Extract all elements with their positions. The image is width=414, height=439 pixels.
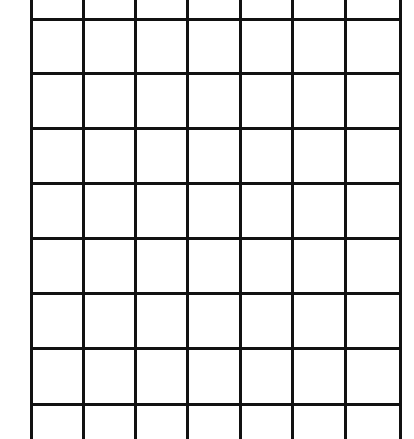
grid-vertical-line: [134, 0, 137, 439]
grid-vertical-line: [82, 0, 85, 439]
grid-vertical-line: [344, 0, 347, 439]
blank-grid: [0, 0, 414, 439]
grid-horizontal-line: [30, 292, 402, 295]
grid-horizontal-line: [30, 403, 402, 406]
grid-vertical-line: [239, 0, 242, 439]
grid-horizontal-line: [30, 237, 402, 240]
grid-horizontal-line: [30, 127, 402, 130]
grid-vertical-line: [186, 0, 189, 439]
grid-horizontal-line: [30, 18, 402, 21]
grid-vertical-line: [291, 0, 294, 439]
grid-horizontal-line: [30, 72, 402, 75]
grid-vertical-line: [399, 0, 402, 439]
grid-vertical-line: [30, 0, 33, 439]
grid-horizontal-line: [30, 347, 402, 350]
grid-horizontal-line: [30, 182, 402, 185]
